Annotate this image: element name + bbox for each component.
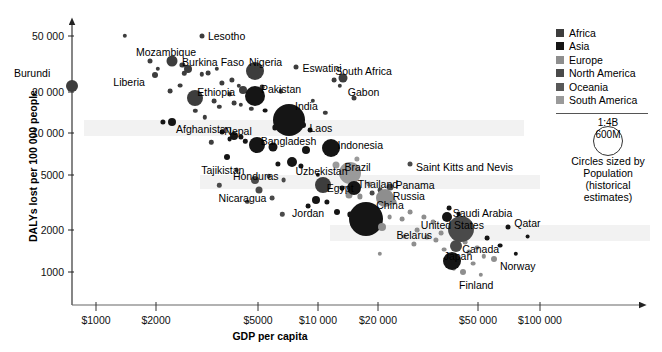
point-label-bangladesh: Bangladesh [261,136,316,147]
legend-entries: AfricaAsiaEuropeNorth AmericaOceaniaSout… [556,26,660,107]
data-point-tajikistan[interactable] [224,154,230,160]
data-point[interactable] [206,71,211,76]
data-point[interactable] [400,217,405,222]
legend-item-africa[interactable]: Africa [556,26,660,40]
data-point[interactable] [263,108,268,113]
data-point-eswatini[interactable] [294,64,299,69]
data-point[interactable] [232,100,237,105]
legend-swatch-icon [556,69,564,77]
data-point[interactable] [387,214,392,219]
size-legend-value: 600M [595,129,620,140]
x-tick-label: $20 000 [359,314,397,326]
data-point[interactable] [485,236,490,241]
data-point[interactable] [408,210,413,215]
y-tick-label: 1000 [6,266,64,278]
point-label-laos: Laos [309,123,332,134]
size-caption-line-4: estimates) [556,191,660,203]
data-point-jordan[interactable] [312,196,320,204]
legend-item-label: North America [569,67,636,79]
data-point[interactable] [167,89,172,94]
y-axis-title: DALYs lost per 100 000 people [27,81,39,251]
legend-item-label: Asia [569,40,589,52]
size-legend-caption: Circles sized by Population (historical … [556,155,660,203]
legend-divider [556,113,648,114]
legend-swatch-icon [556,83,564,91]
data-point[interactable] [147,59,152,64]
size-legend-scale: 1:4B [556,117,660,128]
point-label-nicaragua: Nicaragua [219,193,267,204]
point-label-belarus: Belarus [396,230,432,241]
size-caption-line-2: Population [556,167,660,179]
point-label-afghanistan: Afghanistan [176,124,231,135]
x-tick-label: $5000 [243,314,272,326]
legend: AfricaAsiaEuropeNorth AmericaOceaniaSout… [556,26,660,203]
legend-item-south-america[interactable]: South America [556,94,660,108]
data-point[interactable] [332,78,337,83]
data-point-saint-kitts-and-nevis[interactable] [408,161,413,166]
x-tick-label: $10 000 [299,314,337,326]
point-label-uzbekistan: Uzbekistan [296,166,348,177]
legend-item-asia[interactable]: Asia [556,40,660,54]
data-point-laos[interactable] [300,122,306,128]
data-point[interactable] [212,99,217,104]
point-label-ethiopia: Ethiopia [197,87,235,98]
point-label-nigeria: Nigeria [249,57,282,68]
data-point[interactable] [281,178,286,183]
x-axis-title: GDP per capita [0,330,540,342]
point-label-pakistan: Pakistan [261,84,301,95]
legend-item-label: Africa [569,27,596,39]
size-legend: 1:4B 600M [556,117,660,153]
point-label-burkina-faso: Burkina Faso [182,57,244,68]
legend-item-north-america[interactable]: North America [556,67,660,81]
x-tick-label: $100 000 [518,314,562,326]
point-label-panama: Panama [396,180,435,191]
point-label-egypt: Egypt [327,183,354,194]
data-point-liberia[interactable] [152,72,158,78]
point-label-finland: Finland [459,280,493,291]
legend-swatch-icon [556,29,564,37]
legend-item-europe[interactable]: Europe [556,53,660,67]
x-tick-label: $1000 [81,314,110,326]
point-label-india: India [295,101,318,112]
point-label-thailand: Thailand [358,179,398,190]
point-label-gabon: Gabon [348,87,380,98]
point-label-china: China [376,200,403,211]
data-point[interactable] [370,191,375,196]
data-point-lesotho[interactable] [199,34,204,39]
legend-item-label: Oceania [569,81,608,93]
point-label-indonesia: Indonesia [337,140,383,151]
data-point[interactable] [439,231,444,236]
data-point-belarus[interactable] [378,223,386,231]
chart-root: 50 000 20 000 10 000 5000 2000 1000 $100… [0,0,662,352]
data-point-norway[interactable] [491,256,497,262]
point-label-liberia: Liberia [113,77,145,88]
data-point[interactable] [525,234,530,239]
legend-item-label: South America [569,94,637,106]
point-label-lesotho: Lesotho [208,31,245,42]
point-label-united-states: United States [421,220,484,231]
legend-item-oceania[interactable]: Oceania [556,80,660,94]
data-point[interactable] [270,196,275,201]
point-label-burundi: Burundi [14,68,50,79]
data-point-qatar[interactable] [506,225,511,230]
data-point-finland[interactable] [460,269,466,275]
point-label-saudi-arabia: Saudi Arabia [453,208,513,219]
data-point[interactable] [334,209,340,215]
legend-swatch-icon [556,56,564,64]
point-label-brazil: Brazil [344,162,370,173]
point-label-japan: Japan [444,251,473,262]
x-tick-label: $2000 [141,314,170,326]
legend-item-label: Europe [569,54,603,66]
data-point[interactable] [447,205,452,210]
point-label-jordan: Jordan [292,208,324,219]
data-point[interactable] [178,83,183,88]
point-label-qatar: Qatar [514,218,540,229]
legend-swatch-icon [556,42,564,50]
data-point-afghanistan[interactable] [168,118,176,126]
point-label-south-africa: South Africa [335,66,392,77]
data-point-burundi[interactable] [66,80,78,92]
size-caption-line-1: Circles sized by [556,155,660,167]
point-label-saint-kitts-and-nevis: Saint Kitts and Nevis [416,162,513,173]
point-label-norway: Norway [500,261,536,272]
legend-swatch-icon [556,96,564,104]
